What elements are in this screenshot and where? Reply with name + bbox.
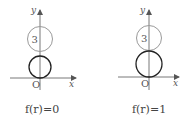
x-axis-label: x [173, 78, 178, 88]
figure-right: 3 y x O f(r)=1 [118, 5, 179, 116]
origin-label: O [32, 79, 40, 90]
origin-label: O [141, 78, 149, 89]
x-axis-label: x [69, 79, 74, 89]
y-axis-label: y [30, 5, 37, 15]
caption: f(r)=0 [25, 103, 59, 116]
caption: f(r)=1 [132, 103, 166, 116]
upper-circle-label: 3 [32, 34, 38, 45]
upper-circle-label: 3 [141, 33, 147, 44]
figure-left: 3 y x O f(r)=0 [10, 5, 76, 116]
y-axis-label: y [139, 5, 146, 15]
diagram-canvas: 3 y x O f(r)=0 3 y x O f(r)=1 [0, 0, 188, 122]
